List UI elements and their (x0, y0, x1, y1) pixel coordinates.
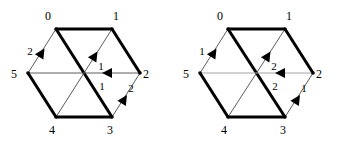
left-hexagon-vertex-label-2: 2 (143, 67, 149, 81)
left-hexagon-edge-e-1-2 (112, 29, 140, 73)
right-hexagon-arrowhead-a-4-1 (261, 52, 271, 63)
left-hexagon-edge-weight-a-2-5: 1 (99, 80, 105, 92)
right-hexagon-vertex-label-4: 4 (221, 123, 227, 137)
right-hexagon-vertex-dot-1 (283, 27, 287, 31)
left-hexagon-vertex-dot-2 (138, 71, 142, 75)
right-hexagon-vertex-dot-5 (198, 71, 202, 75)
right-hexagon-vertex-label-5: 5 (183, 67, 189, 81)
left-hexagon-edge-e-2-3 (112, 73, 140, 117)
left-hexagon-edge-weight-a-5-0: 2 (27, 45, 33, 57)
left-hexagon-edge-e-4-5 (28, 73, 56, 117)
right-hexagon-edge-weight-a-2-5: 2 (272, 80, 278, 92)
left-hexagon-vertex-dot-0 (54, 27, 58, 31)
left-hexagon-vertex-dot-3 (110, 115, 114, 119)
left-hexagon-vertex-label-3: 3 (107, 123, 113, 137)
left-hexagon-vertex-label-4: 4 (49, 123, 55, 137)
left-hexagon-arrowhead-a-3-2 (117, 95, 127, 106)
right-hexagon-edge-weight-a-5-0: 1 (199, 45, 205, 57)
left-hexagon-vertex-dot-4 (54, 115, 58, 119)
left-hexagon-vertex-label-0: 0 (45, 9, 51, 23)
hexagon-diagram-svg: 21120123451221012345 (0, 0, 341, 146)
right-hexagon-edge-e-4-5 (200, 73, 228, 117)
right-hexagon-edge-weight-a-4-1: 2 (271, 60, 277, 72)
right-hexagon-vertex-label-3: 3 (280, 123, 286, 137)
hexagon-figure-canvas: 21120123451221012345 (0, 0, 341, 146)
left-hexagon: 2112012345 (11, 9, 149, 137)
right-hexagon-edge-e-2-3 (285, 73, 313, 117)
right-hexagon: 1221012345 (183, 9, 322, 137)
right-hexagon-arrowhead-a-3-2 (290, 95, 300, 106)
right-hexagon-vertex-dot-4 (226, 115, 230, 119)
right-hexagon-vertex-dot-2 (311, 71, 315, 75)
right-hexagon-edge-e-1-2 (285, 29, 313, 73)
left-hexagon-vertex-dot-1 (110, 27, 114, 31)
right-hexagon-vertex-label-0: 0 (217, 9, 223, 23)
left-hexagon-arrowhead-a-4-1 (88, 52, 98, 63)
right-hexagon-arrowhead-a-5-0 (207, 49, 217, 60)
left-hexagon-vertex-dot-5 (26, 71, 30, 75)
left-hexagon-vertex-label-5: 5 (11, 67, 17, 81)
left-hexagon-edge-weight-a-4-1: 1 (98, 60, 104, 72)
right-hexagon-vertex-label-2: 2 (316, 67, 322, 81)
left-hexagon-edge-weight-a-3-2: 2 (128, 82, 134, 94)
right-hexagon-vertex-dot-3 (283, 115, 287, 119)
left-hexagon-vertex-label-1: 1 (113, 9, 119, 23)
right-hexagon-vertex-label-1: 1 (286, 9, 292, 23)
right-hexagon-vertex-dot-0 (226, 27, 230, 31)
right-hexagon-edge-weight-a-3-2: 1 (301, 82, 307, 94)
left-hexagon-arrowhead-a-5-0 (35, 49, 45, 60)
